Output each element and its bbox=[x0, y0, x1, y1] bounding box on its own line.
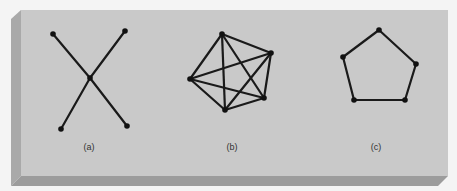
figure-b-label: (b) bbox=[227, 142, 238, 152]
graph-vertex bbox=[376, 27, 382, 33]
graph-vertex bbox=[351, 97, 357, 103]
graph-vertex bbox=[222, 107, 228, 113]
graph-vertex bbox=[122, 28, 128, 34]
panel-bottom-bevel bbox=[11, 176, 448, 186]
graph-vertex bbox=[58, 126, 64, 132]
panel-left-bevel bbox=[11, 10, 21, 186]
graph-vertex bbox=[87, 75, 93, 81]
graph-vertex bbox=[413, 61, 419, 67]
graph-vertex bbox=[261, 95, 267, 101]
graph-vertex bbox=[187, 76, 193, 82]
graph-vertex bbox=[124, 123, 130, 129]
figure-a-label: (a) bbox=[84, 142, 95, 152]
graph-vertex bbox=[340, 54, 346, 60]
graph-vertex bbox=[50, 31, 56, 37]
graph-figures-panel: (a) (b) (c) bbox=[0, 0, 457, 191]
graph-vertex bbox=[268, 50, 274, 56]
graph-vertex bbox=[402, 97, 408, 103]
graph-vertex bbox=[219, 31, 225, 37]
figure-c-label: (c) bbox=[371, 142, 382, 152]
